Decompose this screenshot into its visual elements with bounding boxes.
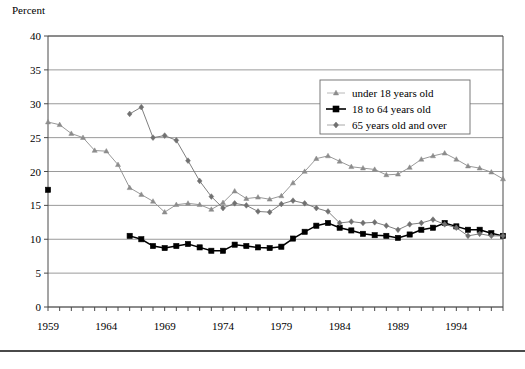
data-marker-triangle (150, 199, 155, 203)
data-marker-diamond (244, 203, 249, 209)
legend-item-label: under 18 years old (352, 87, 434, 99)
y-axis-ticks: 0510152025303540 (30, 30, 48, 313)
y-tick-label: 30 (30, 98, 42, 110)
data-marker-triangle (325, 153, 330, 157)
y-tick-label: 0 (36, 301, 42, 313)
data-marker-square (360, 231, 365, 236)
data-marker-triangle (442, 151, 447, 155)
line-chart: 0510152025303540 19591964196919741979198… (0, 0, 525, 369)
data-marker-square (430, 225, 435, 230)
data-marker-square (197, 245, 202, 250)
data-marker-diamond (256, 209, 261, 215)
data-marker-square (349, 228, 354, 233)
data-marker-triangle (407, 165, 412, 169)
data-marker-diamond (349, 219, 354, 225)
data-marker-triangle (255, 195, 260, 199)
data-marker-square (244, 243, 249, 248)
data-marker-square (290, 236, 295, 241)
data-marker-triangle (185, 201, 190, 205)
data-marker-diamond (291, 198, 296, 204)
data-marker-square (384, 233, 389, 238)
chart-legend: under 18 years old18 to 64 years old65 y… (320, 80, 470, 134)
y-tick-label: 5 (36, 267, 42, 279)
data-marker-square (314, 223, 319, 228)
data-marker-diamond (361, 220, 366, 226)
data-marker-diamond (127, 111, 132, 117)
y-tick-label: 35 (30, 64, 42, 76)
data-marker-square (465, 227, 470, 232)
data-marker-square (333, 106, 339, 112)
legend-item-label: 18 to 64 years old (352, 103, 431, 115)
data-marker-square (407, 232, 412, 237)
data-marker-triangle (69, 131, 74, 135)
y-tick-label: 15 (30, 199, 42, 211)
y-tick-label: 25 (30, 132, 42, 144)
data-marker-diamond (186, 158, 191, 164)
x-tick-label: 1984 (329, 320, 352, 332)
data-marker-diamond (151, 135, 156, 141)
data-marker-square (150, 243, 155, 248)
data-marker-diamond (384, 223, 389, 229)
data-marker-triangle (500, 176, 505, 180)
data-marker-square (162, 245, 167, 250)
data-marker-diamond (431, 217, 436, 223)
legend-item-label: 65 years old and over (352, 119, 447, 131)
x-tick-label: 1964 (95, 320, 118, 332)
data-marker-diamond (267, 209, 272, 215)
data-marker-square (279, 244, 284, 249)
y-tick-label: 20 (30, 166, 42, 178)
data-marker-triangle (232, 189, 237, 193)
data-marker-square (255, 245, 260, 250)
data-marker-diamond (407, 221, 412, 227)
data-marker-triangle (45, 119, 50, 123)
x-tick-label: 1994 (445, 320, 468, 332)
data-marker-square (174, 243, 179, 248)
data-marker-diamond (466, 233, 471, 239)
data-marker-triangle (139, 192, 144, 196)
data-marker-square (325, 220, 330, 225)
x-tick-label: 1974 (212, 320, 235, 332)
y-tick-label: 10 (30, 233, 42, 245)
data-marker-diamond (372, 219, 377, 225)
data-marker-square (395, 235, 400, 240)
x-tick-label: 1969 (154, 320, 177, 332)
data-marker-square (232, 242, 237, 247)
data-marker-diamond (174, 137, 179, 143)
y-tick-label: 40 (30, 30, 42, 42)
data-marker-square (302, 229, 307, 234)
data-marker-diamond (139, 104, 144, 110)
data-marker-square (419, 227, 424, 232)
gridlines (48, 36, 503, 307)
data-marker-triangle (454, 157, 459, 161)
data-marker-square (267, 245, 272, 250)
data-marker-diamond (279, 201, 284, 207)
data-marker-square (45, 187, 50, 192)
x-tick-label: 1959 (37, 320, 60, 332)
data-marker-square (372, 233, 377, 238)
data-marker-triangle (127, 185, 132, 189)
data-marker-square (127, 233, 132, 238)
series-line (48, 122, 503, 212)
x-tick-label: 1979 (270, 320, 293, 332)
data-marker-diamond (396, 227, 401, 233)
data-marker-triangle (465, 163, 470, 167)
data-marker-square (209, 248, 214, 253)
data-marker-triangle (395, 172, 400, 176)
data-marker-square (139, 237, 144, 242)
data-marker-diamond (419, 220, 424, 226)
data-marker-diamond (314, 205, 319, 211)
x-tick-label: 1989 (387, 320, 410, 332)
x-axis-ticks: 19591964196919741979198419891994 (37, 307, 503, 332)
data-marker-square (220, 248, 225, 253)
data-marker-square (185, 241, 190, 246)
bottom-horizontal-rule (0, 350, 525, 352)
chart-figure: Percent 0510152025303540 195919641969197… (0, 0, 525, 369)
